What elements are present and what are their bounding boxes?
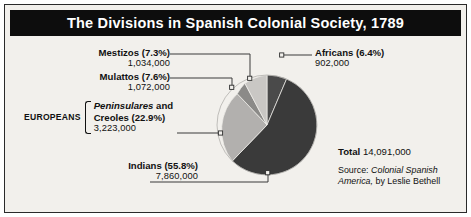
callout-europeans-line2: Creoles (22.9%): [94, 112, 173, 124]
callout-indians-percent: (55.8%): [164, 160, 198, 171]
europeans-brace-icon: [85, 101, 91, 134]
callout-africans-heading: Africans (6.4%): [315, 47, 455, 58]
callout-africans-percent: (6.4%): [356, 47, 384, 58]
callout-mestizos-value: 1,034,000: [62, 58, 170, 69]
source-prefix: Source:: [338, 165, 369, 175]
callout-mulattos-heading: Mulattos (7.6%): [62, 71, 170, 82]
callout-europeans-italic: Peninsulares: [94, 100, 154, 111]
callout-indians-label: Indians: [128, 160, 162, 171]
callout-europeans-percent: (22.9%): [132, 112, 166, 123]
callout-africans-value: 902,000: [315, 58, 455, 69]
callout-mestizos-percent: (7.3%): [142, 47, 170, 58]
callout-mulattos: Mulattos (7.6%) 1,072,000: [62, 71, 170, 94]
leader-dot-africans: [280, 53, 284, 57]
source-author: by Leslie Bethell: [375, 176, 440, 186]
leader-dot-europeans: [218, 131, 222, 135]
callout-mulattos-value: 1,072,000: [62, 82, 170, 93]
callout-mestizos: Mestizos (7.3%) 1,034,000: [62, 47, 170, 70]
total-label: Total: [338, 146, 360, 157]
callout-europeans-conjunction: and: [156, 100, 173, 111]
callout-europeans: EUROPEANS Peninsulares and Creoles (22.9…: [24, 100, 174, 135]
callout-indians-value: 7,860,000: [88, 171, 198, 182]
leader-line-mestizos: [170, 54, 250, 79]
callout-europeans-value: 3,223,000: [94, 123, 173, 135]
source-citation: Source: Colonial Spanish America, by Les…: [338, 165, 461, 187]
callout-indians-heading: Indians (55.8%): [88, 160, 198, 171]
leader-dot-indians: [266, 171, 270, 175]
page-title: The Divisions in Spanish Colonial Societ…: [67, 15, 404, 31]
callout-mulattos-percent: (7.6%): [142, 71, 170, 82]
chart-plot-area: Mestizos (7.3%) 1,034,000 Mulattos (7.6%…: [10, 38, 461, 207]
leader-line-mulattos: [170, 78, 232, 88]
leader-dot-mestizos: [248, 76, 252, 80]
callout-mestizos-heading: Mestizos (7.3%): [62, 47, 170, 58]
callout-mulattos-label: Mulattos: [100, 71, 139, 82]
europeans-bracket-label: EUROPEANS: [24, 111, 81, 123]
leader-dot-mulattos: [230, 85, 234, 89]
chart-title-bar: The Divisions in Spanish Colonial Societ…: [10, 10, 461, 36]
callout-africans-label: Africans: [315, 47, 353, 58]
total-value: 14,091,000: [363, 146, 411, 157]
figure-frame: The Divisions in Spanish Colonial Societ…: [4, 4, 467, 213]
callout-europeans-line1: Peninsulares and: [94, 100, 173, 112]
total-line: Total 14,091,000: [338, 146, 411, 157]
callout-indians: Indians (55.8%) 7,860,000: [88, 160, 198, 183]
callout-africans: Africans (6.4%) 902,000: [315, 47, 455, 70]
callout-mestizos-label: Mestizos: [99, 47, 140, 58]
callout-europeans-label2: Creoles: [94, 112, 129, 123]
